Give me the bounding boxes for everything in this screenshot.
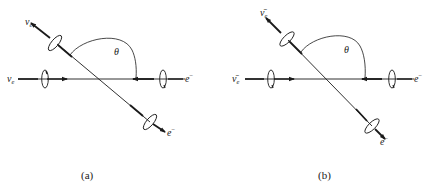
scattering-diagram-figure: θ νe νe e− e− (a): [0, 0, 428, 186]
panel-b: θ ν̄e ν̄e e− e− (b): [232, 7, 422, 182]
incoming-electron-label: e−: [414, 72, 422, 84]
outgoing-electron-thick: [130, 105, 143, 116]
outgoing-neutrino-arrow: [31, 23, 50, 38]
angle-label: θ: [344, 44, 349, 55]
panel-caption: (b): [318, 169, 331, 182]
incoming-neutrino-label: νe: [7, 73, 14, 85]
outgoing-antineutrino-thick: [289, 41, 302, 54]
angle-arc: [301, 36, 365, 78]
angle-arc: [70, 38, 136, 78]
panel-a: θ νe νe e− e− (a): [7, 16, 193, 182]
outgoing-antineutrino-label: ν̄e: [260, 7, 267, 19]
outgoing-electron-thick: [356, 109, 367, 121]
outgoing-electron-label: e−: [167, 126, 175, 138]
angle-label: θ: [114, 46, 119, 57]
outgoing-electron-arrow: [153, 124, 165, 132]
incoming-antineutrino-label: ν̄e: [232, 73, 239, 85]
panel-caption: (a): [81, 169, 94, 182]
outgoing-antineutrino-arrow: [266, 18, 281, 33]
outgoing-neutrino-thick: [58, 45, 72, 57]
outgoing-electron-label: e−: [380, 135, 388, 147]
incoming-electron-label: e−: [185, 72, 193, 84]
outgoing-neutrino-label: νe: [25, 16, 32, 28]
